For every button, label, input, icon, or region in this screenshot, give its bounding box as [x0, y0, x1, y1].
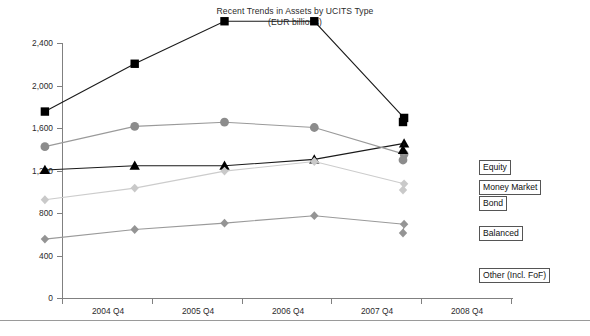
data-point-marker — [41, 235, 49, 244]
data-point-marker — [41, 195, 49, 204]
data-point-marker — [131, 225, 139, 234]
x-tick-4 — [421, 298, 422, 304]
data-point-marker — [220, 17, 228, 25]
x-tick-0 — [62, 298, 63, 304]
data-point-marker — [130, 161, 140, 170]
x-tick-3 — [331, 298, 332, 304]
legend-label: Money Market — [479, 180, 541, 195]
data-point-marker — [310, 211, 318, 220]
data-point-marker — [310, 123, 319, 132]
data-point-marker — [41, 107, 49, 115]
legend-item-money-market[interactable]: Money Market — [479, 180, 541, 195]
x-axis-tick-label: 2008 Q4 — [422, 306, 512, 316]
series-other-incl-fof — [41, 211, 409, 243]
x-axis-tick-label: 2006 Q4 — [243, 306, 333, 316]
legend-item-bond[interactable]: Bond — [479, 196, 507, 211]
x-tick-1 — [152, 298, 153, 304]
y-tick-400 — [57, 256, 63, 257]
legend-marker — [399, 229, 407, 238]
x-tick-2 — [242, 298, 243, 304]
bottom-divider — [0, 320, 590, 321]
data-point-marker — [130, 122, 139, 131]
chart-figure: Recent Trends in Assets by UCITS Type (E… — [0, 0, 590, 336]
series-equity — [41, 17, 409, 122]
data-point-marker — [131, 60, 139, 68]
legend-label: Balanced — [479, 226, 523, 241]
series-line — [45, 122, 404, 154]
series-line — [45, 21, 404, 118]
legend-marker — [399, 186, 407, 195]
x-axis-tick-label: 2007 Q4 — [332, 306, 422, 316]
data-point-marker — [220, 219, 228, 228]
y-axis-tick-label: 0 — [13, 293, 53, 303]
legend-marker — [399, 118, 407, 126]
data-point-marker — [310, 17, 318, 25]
data-point-marker — [131, 184, 139, 193]
legend-item-equity[interactable]: Equity — [479, 160, 511, 175]
data-point-marker — [41, 142, 50, 151]
x-tick-5 — [511, 298, 512, 304]
data-point-marker — [220, 118, 229, 127]
legend-label: Bond — [479, 196, 507, 211]
x-axis-tick-label: 2005 Q4 — [153, 306, 243, 316]
legend-marker — [399, 156, 408, 165]
legend-label: Equity — [479, 160, 511, 175]
plot-series-layer — [0, 0, 449, 255]
y-tick-label-wrap: 0 — [8, 293, 53, 304]
x-axis-tick-label: 2004 Q4 — [63, 306, 153, 316]
legend-label: Other (Incl. FoF) — [479, 268, 550, 283]
legend-item-other-incl-fof[interactable]: Other (Incl. FoF) — [479, 268, 550, 283]
x-axis-line — [62, 298, 513, 299]
legend-item-balanced[interactable]: Balanced — [479, 226, 523, 241]
